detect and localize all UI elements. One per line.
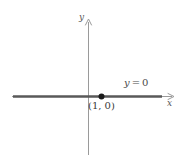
point-marker-1-0 bbox=[99, 94, 105, 100]
y-axis-label: y bbox=[79, 13, 84, 22]
point-coordinate-label: (1, 0) bbox=[88, 101, 115, 111]
x-axis-label: x bbox=[167, 99, 172, 108]
curve-equation-rhs: 0 bbox=[142, 77, 148, 88]
coordinate-plane bbox=[0, 0, 182, 167]
math-figure: y x y = 0 (1, 0) bbox=[0, 0, 182, 167]
curve-equation-equals: = bbox=[132, 77, 140, 88]
curve-equation-label: y = 0 bbox=[124, 78, 148, 88]
